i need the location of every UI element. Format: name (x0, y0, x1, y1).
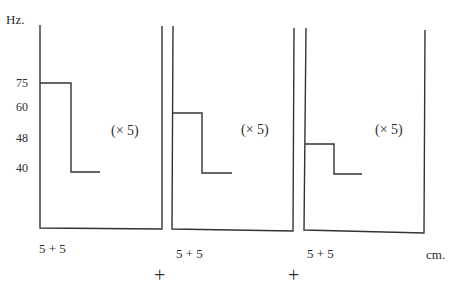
panel-2-width-label: 5 + 5 (176, 246, 203, 261)
y-unit-label: Hz. (6, 12, 24, 27)
panel-3-step-line (305, 144, 362, 174)
panel-2: (× 5) 5 + 5 (172, 26, 294, 261)
panel-1: (× 5) 5 + 5 (39, 25, 162, 256)
x-unit-label: cm. (426, 247, 445, 262)
y-tick-label-48: 48 (16, 131, 28, 145)
step-diagram: Hz. 75 60 48 40 (× 5) 5 + 5 (× 5) 5 + 5 … (0, 0, 459, 295)
panel-1-multiplier-label: (× 5) (111, 123, 139, 139)
joiner-plus-1: + (154, 264, 165, 286)
panel-2-multiplier-label: (× 5) (241, 122, 269, 138)
panel-2-step-line (172, 113, 232, 173)
y-tick-label-60: 60 (16, 100, 28, 114)
panel-3-width-label: 5 + 5 (307, 246, 334, 261)
panel-1-step-line (40, 83, 100, 172)
panel-3: (× 5) 5 + 5 (304, 28, 425, 261)
y-tick-label-40: 40 (16, 161, 28, 175)
panel-3-frame (304, 28, 425, 233)
panel-1-frame (40, 25, 162, 229)
y-tick-label-75: 75 (16, 76, 28, 90)
panel-1-width-label: 5 + 5 (39, 241, 66, 256)
panel-2-frame (172, 26, 294, 231)
panel-3-multiplier-label: (× 5) (375, 122, 403, 138)
joiner-plus-2: + (288, 264, 299, 286)
